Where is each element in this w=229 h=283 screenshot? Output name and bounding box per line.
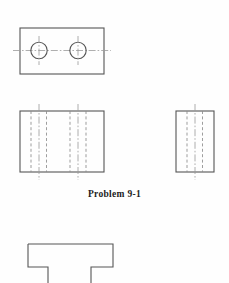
page-title: Problem 9-1 (0, 189, 229, 199)
top-view-outline (20, 28, 104, 74)
front-view-group (20, 104, 104, 180)
side-view-group (176, 104, 214, 180)
front-view-outline (20, 111, 104, 172)
technical-drawing-canvas (0, 0, 229, 283)
top-view-group (13, 28, 111, 74)
bottom-view-group (28, 244, 113, 283)
bottom-view-outline (28, 244, 113, 283)
drawing-page: Problem 9-1 (0, 0, 229, 283)
